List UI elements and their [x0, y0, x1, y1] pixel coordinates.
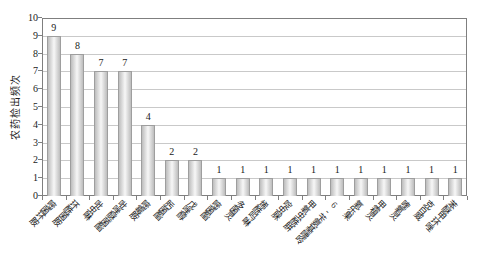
bar: [259, 178, 273, 196]
y-tick-label: 10: [12, 13, 38, 23]
x-tick-mark: [207, 196, 208, 200]
bar: [236, 178, 250, 196]
x-category-label: 氧乐果: [340, 197, 365, 222]
y-tick-mark: [38, 17, 42, 18]
bar-value-label: 2: [185, 147, 205, 157]
bar: [94, 71, 108, 196]
x-tick-mark: [113, 196, 114, 200]
bar: [401, 178, 415, 196]
x-tick-mark: [467, 196, 468, 200]
x-tick-mark: [136, 196, 137, 200]
y-tick-mark: [38, 70, 42, 71]
y-tick-label: 6: [12, 84, 38, 94]
y-tick-label: 0: [12, 191, 38, 201]
bar-value-label: 7: [91, 58, 111, 68]
x-category-label: 喹氧灵: [388, 197, 413, 222]
y-tick-label: 1: [12, 173, 38, 183]
bar-value-label: 1: [445, 165, 465, 175]
x-tick-mark: [325, 196, 326, 200]
y-tick-mark: [38, 177, 42, 178]
y-tick-label: 2: [12, 155, 38, 165]
bar-value-label: 8: [67, 41, 87, 51]
y-tick-label: 5: [12, 102, 38, 112]
bar-value-label: 4: [138, 112, 158, 122]
x-tick-mark: [42, 196, 43, 200]
x-tick-mark: [184, 196, 185, 200]
y-tick-mark: [38, 88, 42, 89]
x-category-label: 戊唑醇: [175, 197, 200, 222]
bar: [307, 178, 321, 196]
gridline: [43, 54, 466, 55]
x-tick-mark: [231, 196, 232, 200]
x-tick-mark: [66, 196, 67, 200]
y-tick-mark: [38, 124, 42, 125]
x-tick-mark: [89, 196, 90, 200]
bar: [118, 71, 132, 196]
y-tick-label: 4: [12, 120, 38, 130]
bar-value-label: 9: [44, 23, 64, 33]
bar: [377, 178, 391, 196]
bar-value-label: 1: [351, 165, 371, 175]
bar: [425, 178, 439, 196]
bar: [212, 178, 226, 196]
x-tick-mark: [443, 196, 444, 200]
x-tick-mark: [255, 196, 256, 200]
bar-value-label: 1: [233, 165, 253, 175]
y-tick-mark: [38, 35, 42, 36]
x-tick-mark: [349, 196, 350, 200]
x-tick-mark: [373, 196, 374, 200]
bar-value-label: 1: [304, 165, 324, 175]
bar-value-label: 1: [280, 165, 300, 175]
bar: [330, 178, 344, 196]
x-category-label: 嘧菌酯: [199, 197, 224, 222]
y-tick-label: 7: [12, 66, 38, 76]
bar: [70, 54, 84, 196]
x-tick-mark: [302, 196, 303, 200]
bar-value-label: 1: [398, 165, 418, 175]
x-tick-mark: [278, 196, 279, 200]
bar-value-label: 1: [327, 165, 347, 175]
y-tick-mark: [38, 106, 42, 107]
y-tick-mark: [38, 159, 42, 160]
bar: [354, 178, 368, 196]
x-category-label: 甲霜灵: [364, 197, 389, 222]
bar-value-label: 1: [374, 165, 394, 175]
bar-value-label: 1: [422, 165, 442, 175]
bar: [283, 178, 297, 196]
bar: [448, 178, 462, 196]
bar-value-label: 1: [209, 165, 229, 175]
gridline: [43, 36, 466, 37]
x-tick-mark: [160, 196, 161, 200]
y-tick-mark: [38, 53, 42, 54]
bar-value-label: 1: [256, 165, 276, 175]
y-tick-label: 3: [12, 138, 38, 148]
bar: [47, 36, 61, 196]
bar-value-label: 2: [162, 147, 182, 157]
x-category-label: 肟菌酯: [151, 197, 176, 222]
bar-value-label: 7: [115, 58, 135, 68]
y-tick-label: 8: [12, 49, 38, 59]
bar: [165, 160, 179, 196]
x-tick-mark: [396, 196, 397, 200]
bar-chart: 农药检出频次 0123456789109嘧菌环胺8环酰菌胺7吡虫啉7吡唑醚菌酯4…: [0, 0, 504, 269]
x-tick-mark: [420, 196, 421, 200]
bar: [188, 160, 202, 196]
y-tick-label: 9: [12, 31, 38, 41]
x-category-label: 嘧霉胺: [128, 197, 153, 222]
y-tick-mark: [38, 142, 42, 143]
bar: [141, 125, 155, 196]
